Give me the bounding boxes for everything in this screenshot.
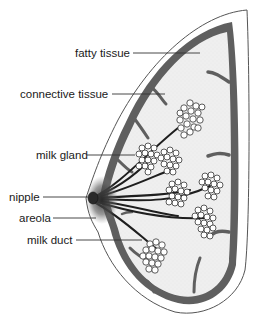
nipple bbox=[88, 192, 98, 204]
label-milk-gland: milk gland bbox=[36, 149, 88, 161]
label-areola: areola bbox=[19, 212, 52, 224]
breast-anatomy-diagram: fatty tissue connective tissue milk glan… bbox=[0, 0, 257, 330]
label-fatty-tissue: fatty tissue bbox=[75, 47, 130, 59]
label-nipple: nipple bbox=[9, 191, 40, 203]
label-connective-tissue: connective tissue bbox=[20, 88, 108, 100]
label-milk-duct: milk duct bbox=[27, 234, 73, 246]
